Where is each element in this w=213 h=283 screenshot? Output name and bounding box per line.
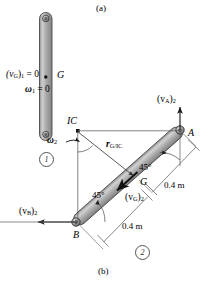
r-vector-subscript: G/IC <box>110 142 123 149</box>
initial-velocity-label: (vG)1 = 0 <box>6 70 39 80</box>
initial-omega-equals: = 0 <box>35 84 50 94</box>
omega-2-subscript: 2 <box>54 138 57 145</box>
initial-velocity-equals: = 0 <box>24 69 39 79</box>
velocity-a-open: (v <box>157 94 165 104</box>
instant-center-label: IC <box>67 116 77 126</box>
velocity-b-state: 2 <box>34 209 37 216</box>
point-a-label: A <box>188 128 194 138</box>
velocity-b-label: (vB)2 <box>19 207 37 217</box>
velocity-g-label: (vG)2 <box>125 193 144 203</box>
position-marker-2: 2 <box>135 245 150 260</box>
velocity-b-open: (v <box>19 206 27 216</box>
velocity-g-state: 2 <box>141 195 144 202</box>
figure-canvas: (a) (vG)1 = 0 ω1 = 0 G 1 IC ω2 rG/IC (vA… <box>0 0 213 283</box>
velocity-a-label: (vA)2 <box>157 95 176 105</box>
omega-2-label: ω2 <box>47 136 57 146</box>
pin-support-top-hole <box>45 17 48 20</box>
dim-lower-line <box>104 197 149 243</box>
omega-2-symbol: ω <box>47 135 54 145</box>
position-marker-1: 1 <box>39 152 54 167</box>
angle-label-bottom: 45° <box>92 191 105 200</box>
angle-label-top: 45° <box>139 163 152 172</box>
panel-b-caption: (b) <box>98 267 109 276</box>
dimension-lower-label: 0.4 m <box>122 222 143 231</box>
joint-b-hole <box>75 221 78 224</box>
point-g-label: G <box>140 177 147 187</box>
panel-a-bar-assembly <box>40 13 53 141</box>
initial-omega-symbol: ω <box>25 84 32 94</box>
center-of-mass-dot-a <box>44 75 47 78</box>
center-of-mass-label-a: G <box>57 70 64 80</box>
velocity-a-state: 2 <box>173 97 176 104</box>
point-b-label: B <box>73 230 79 240</box>
velocity-g-open: (v <box>125 192 133 202</box>
r-g-ic-label: rG/IC <box>106 140 122 150</box>
dimension-upper-label: 0.4 m <box>164 181 185 190</box>
panel-a-caption: (a) <box>96 4 106 13</box>
angle-arc-at-ic <box>78 146 93 152</box>
initial-omega-label: ω1 = 0 <box>25 85 50 95</box>
